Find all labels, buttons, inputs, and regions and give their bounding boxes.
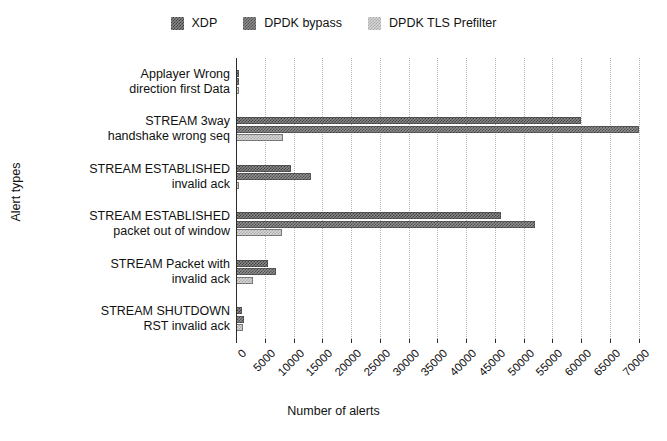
x-tick-mark	[639, 339, 640, 343]
x-tick-label: 10000	[275, 347, 306, 378]
x-axis-title: Number of alerts	[0, 404, 667, 418]
legend-swatch-xdp-icon	[171, 17, 184, 30]
x-tick-label: 25000	[361, 347, 392, 378]
legend-entry-xdp[interactable]: XDP	[171, 16, 218, 30]
x-tick-mark	[322, 339, 323, 343]
legend-entry-dpdk-tls-prefilter[interactable]: DPDK TLS Prefilter	[368, 16, 496, 30]
x-tick-mark	[581, 339, 582, 343]
y-tick-label-line: STREAM ESTABLISHED	[18, 162, 230, 177]
bar-group	[236, 248, 650, 296]
y-tick-label-line: direction first Data	[18, 82, 230, 97]
y-tick-label: STREAM Packet withinvalid ack	[18, 257, 230, 287]
y-tick-label-line: handshake wrong seq	[18, 129, 230, 144]
x-tick-label: 20000	[332, 347, 363, 378]
bar-group	[236, 296, 650, 344]
bar-group	[236, 58, 650, 106]
x-tick-mark	[437, 339, 438, 343]
x-tick-mark	[265, 339, 266, 343]
x-tick-label: 50000	[505, 347, 536, 378]
x-tick-mark	[610, 339, 611, 343]
y-tick-label-line: invalid ack	[18, 272, 230, 287]
x-tick-label: 35000	[419, 347, 450, 378]
bar-xdp[interactable]	[236, 165, 291, 172]
x-tick-label: 0	[235, 347, 248, 360]
bar-dpdk-bypass[interactable]	[236, 173, 311, 180]
bar-dpdk-tls-prefilter[interactable]	[236, 324, 243, 331]
y-tick-label-line: STREAM Packet with	[18, 257, 230, 272]
x-tick-label: 60000	[562, 347, 593, 378]
legend-label-dpdk-bypass: DPDK bypass	[264, 16, 342, 30]
x-tick-mark	[380, 339, 381, 343]
x-tick-mark	[236, 339, 237, 343]
y-tick-label-line: RST invalid ack	[18, 319, 230, 334]
x-tick-label: 30000	[390, 347, 421, 378]
bar-dpdk-bypass[interactable]	[236, 268, 276, 275]
x-axis-tick-labels: 0500010000150002000025000300003500040000…	[236, 343, 650, 403]
plot-area	[236, 58, 650, 343]
x-tick-mark	[524, 339, 525, 343]
y-tick-label: STREAM 3wayhandshake wrong seq	[18, 114, 230, 144]
x-tick-mark	[409, 339, 410, 343]
bar-dpdk-tls-prefilter[interactable]	[236, 134, 283, 141]
bar-dpdk-bypass[interactable]	[236, 221, 535, 228]
bar-dpdk-tls-prefilter[interactable]	[236, 277, 253, 284]
y-tick-label-line: STREAM SHUTDOWN	[18, 304, 230, 319]
x-tick-mark	[495, 339, 496, 343]
bar-group	[236, 106, 650, 154]
y-tick-label-line: Applayer Wrong	[18, 67, 230, 82]
legend-label-xdp: XDP	[192, 16, 218, 30]
bar-xdp[interactable]	[236, 212, 501, 219]
y-axis-tick-labels: Applayer Wrongdirection first DataSTREAM…	[18, 58, 230, 343]
y-tick-label-line: packet out of window	[18, 224, 230, 239]
bar-dpdk-tls-prefilter[interactable]	[236, 229, 282, 236]
x-tick-mark	[351, 339, 352, 343]
y-tick-label-line: STREAM ESTABLISHED	[18, 209, 230, 224]
y-tick-label: STREAM ESTABLISHEDpacket out of window	[18, 209, 230, 239]
x-tick-mark	[466, 339, 467, 343]
y-tick-label: Applayer Wrongdirection first Data	[18, 67, 230, 97]
x-tick-label: 5000	[251, 347, 278, 374]
bar-group	[236, 153, 650, 201]
legend-label-dpdk-tls-prefilter: DPDK TLS Prefilter	[389, 16, 496, 30]
bar-dpdk-bypass[interactable]	[236, 126, 639, 133]
legend-entry-dpdk-bypass[interactable]: DPDK bypass	[243, 16, 342, 30]
chart-legend: XDP DPDK bypass DPDK TLS Prefilter	[0, 16, 667, 30]
legend-swatch-dpdk-tls-prefilter-icon	[368, 17, 381, 30]
y-tick-label: STREAM SHUTDOWNRST invalid ack	[18, 304, 230, 334]
y-axis-line	[236, 58, 237, 343]
bar-group	[236, 201, 650, 249]
x-tick-label: 55000	[534, 347, 565, 378]
x-tick-label: 45000	[476, 347, 507, 378]
y-axis-title: Alert types	[9, 132, 23, 252]
legend-swatch-dpdk-bypass-icon	[243, 17, 256, 30]
x-tick-label: 15000	[304, 347, 335, 378]
y-tick-label-line: STREAM 3way	[18, 114, 230, 129]
bar-xdp[interactable]	[236, 117, 581, 124]
y-tick-label: STREAM ESTABLISHEDinvalid ack	[18, 162, 230, 192]
x-tick-label: 65000	[591, 347, 622, 378]
x-tick-mark	[552, 339, 553, 343]
x-tick-label: 70000	[620, 347, 651, 378]
bar-dpdk-bypass[interactable]	[236, 316, 244, 323]
x-tick-label: 40000	[447, 347, 478, 378]
bar-xdp[interactable]	[236, 260, 268, 267]
x-tick-mark	[294, 339, 295, 343]
y-tick-label-line: invalid ack	[18, 177, 230, 192]
